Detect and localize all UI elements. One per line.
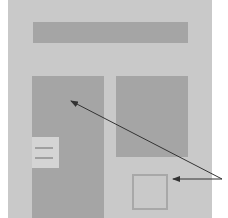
arrow-to-tall-column — [71, 101, 222, 179]
callout-arrows — [0, 0, 228, 218]
